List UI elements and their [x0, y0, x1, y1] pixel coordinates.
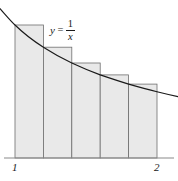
rectangles-group — [15, 25, 157, 158]
fraction-numerator: 1 — [67, 19, 74, 30]
equation-fraction: 1 x — [66, 19, 75, 42]
rectangle-4 — [100, 75, 128, 158]
equation-variable-y: y — [50, 25, 55, 36]
rectangle-5 — [129, 84, 157, 158]
rectangle-3 — [72, 63, 100, 158]
plot-canvas — [0, 0, 178, 181]
area-under-curve-figure: 1 2 y = 1 x — [0, 0, 178, 181]
curve-equation-label: y = 1 x — [50, 19, 75, 42]
x-axis-tick-label-1: 1 — [12, 162, 18, 173]
equation-equals-sign: = — [57, 25, 63, 36]
rectangle-2 — [43, 47, 71, 158]
x-axis-tick-label-2: 2 — [154, 162, 160, 173]
fraction-denominator: x — [67, 31, 74, 42]
